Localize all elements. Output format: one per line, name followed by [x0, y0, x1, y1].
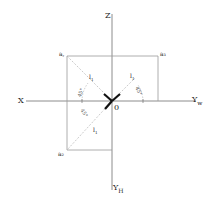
- point-a-double-prime-label: a₃: [160, 51, 166, 57]
- origin-mark-right: [112, 94, 120, 101]
- x-axis-label: X: [18, 97, 24, 105]
- z-axis-label: Z: [105, 12, 111, 20]
- length-l1-left: l1: [89, 74, 93, 83]
- point-a-label: a₂: [58, 151, 64, 157]
- origin-mark-left: [104, 94, 112, 101]
- yw-axis-sub: w: [197, 99, 202, 106]
- length-l1-right-sub: 1: [132, 76, 135, 81]
- length-l1-bottom-sub: 1: [95, 130, 98, 135]
- point-a-prime-mark: ,: [63, 50, 65, 57]
- length-l1-left-sub: 1: [91, 77, 94, 82]
- origin-mark-lower: [105, 101, 112, 109]
- point-a-prime-label: a,: [59, 51, 65, 57]
- length-l1-bottom: l1: [93, 127, 97, 136]
- point-a-mark: ₂: [62, 150, 64, 157]
- length-l1-right: l1: [130, 73, 134, 82]
- yh-axis-label: YH: [113, 184, 124, 194]
- point-a-double-prime-mark: ₃: [164, 50, 166, 57]
- yw-axis-label: Yw: [192, 96, 202, 106]
- yh-axis-sub: H: [118, 187, 123, 194]
- projection-diagram: [0, 0, 211, 209]
- origin-label: 0: [114, 104, 119, 112]
